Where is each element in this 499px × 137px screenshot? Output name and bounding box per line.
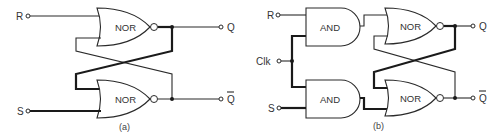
output-label-qbar-b: Q <box>479 93 487 104</box>
output-terminal-q-b <box>471 24 475 28</box>
input-terminal-s-b <box>277 106 281 110</box>
input-terminal-r-b <box>276 13 280 17</box>
nor-gate-top-b-label: NOR <box>400 21 421 32</box>
input-label-clk: Clk <box>256 56 271 67</box>
output-label-qbar-a: Q <box>227 94 235 105</box>
flip-flop-figure: R NOR Q NOR Q S (a) R <box>0 0 499 137</box>
input-label-r-b: R <box>267 10 274 21</box>
output-terminal-q-a <box>219 25 223 29</box>
output-terminal-qbar-b <box>471 96 475 100</box>
input-label-s: S <box>17 106 24 117</box>
caption-b: (b) <box>373 121 384 131</box>
output-label-q-a: Q <box>227 22 235 33</box>
junction-qbar-b <box>453 96 457 100</box>
and-gate-top-label: AND <box>320 22 340 33</box>
wire-clk-bus <box>292 36 306 87</box>
input-label-s-b: S <box>268 103 275 114</box>
diagram-a: R NOR Q NOR Q S (a) <box>16 8 235 132</box>
input-terminal-clk <box>277 59 281 63</box>
input-label-r: R <box>16 11 23 22</box>
input-terminal-s <box>26 109 30 113</box>
inverter-bubble-top-b <box>437 23 444 30</box>
caption-a: (a) <box>119 122 130 132</box>
inverter-bubble-bottom <box>151 96 158 103</box>
wire-and-top-to-nor <box>360 15 388 26</box>
and-gate-bottom-label: AND <box>320 94 340 105</box>
junction-qbar-a <box>170 97 174 101</box>
nor-gate-top-label: NOR <box>115 22 136 33</box>
nor-gate-bottom-b-label: NOR <box>400 93 421 104</box>
output-label-q-b: Q <box>479 21 487 32</box>
inverter-bubble-bottom-b <box>437 95 444 102</box>
diagram-b: R Clk AND AND S NOR Q NOR <box>256 8 487 131</box>
circuit-diagrams: R NOR Q NOR Q S (a) R <box>0 0 499 137</box>
nor-gate-bottom-label: NOR <box>115 94 136 105</box>
wire-and-bottom-to-nor <box>360 98 388 109</box>
output-terminal-qbar-a <box>219 97 223 101</box>
input-terminal-r <box>26 14 30 18</box>
inverter-bubble-top <box>151 24 158 31</box>
